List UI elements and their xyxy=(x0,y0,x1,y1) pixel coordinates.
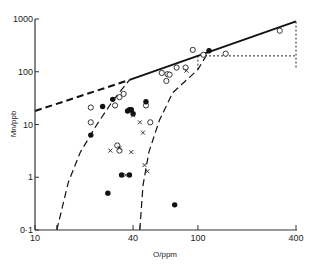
y-tick-label: 100 xyxy=(18,67,33,77)
cross-point xyxy=(142,163,146,167)
filled-circle-point xyxy=(143,99,148,104)
filled-circle-point xyxy=(119,172,124,177)
open-circle-point xyxy=(167,72,172,77)
cross-point xyxy=(141,131,145,135)
open-circle-point xyxy=(121,91,126,96)
x-tick-label: 400 xyxy=(288,233,303,243)
open-circle-point xyxy=(159,70,164,75)
open-circle-point xyxy=(164,78,169,83)
open-circle-point xyxy=(223,51,228,56)
cross-point xyxy=(108,149,112,153)
x-tick-label: 100 xyxy=(190,233,205,243)
y-tick-label: 1 xyxy=(28,172,33,182)
filled-circle-point xyxy=(206,48,211,53)
open-circle-point xyxy=(88,105,93,110)
filled-circle-point xyxy=(172,202,177,207)
open-circle-point xyxy=(148,120,153,125)
x-axis-title: O/ppm xyxy=(153,250,177,259)
scatter-chart: 1040100400 10001001010·1 O/ppm Mn/ppb xyxy=(0,0,314,266)
open-circle-point xyxy=(277,28,282,33)
filled-circle-point xyxy=(110,97,115,102)
filled-circle-point xyxy=(105,190,110,195)
filled-circle-point xyxy=(100,104,105,109)
y-tick-label: 1000 xyxy=(13,14,33,24)
filled-circle-point xyxy=(88,132,93,137)
cross-point xyxy=(129,150,133,154)
open-circle-point xyxy=(190,47,195,52)
left-dashed-curve-line xyxy=(57,80,130,230)
x-tick-label: 40 xyxy=(128,233,138,243)
cross-point xyxy=(138,120,142,124)
boundary-lines xyxy=(35,21,296,230)
y-tick-label: 10 xyxy=(23,120,33,130)
y-tick-label: 0·1 xyxy=(20,225,33,235)
open-circle-point xyxy=(88,120,93,125)
open-circle-point xyxy=(201,52,206,57)
axes xyxy=(35,19,297,230)
solid-upper-boundary-line xyxy=(130,21,297,80)
open-circle-point xyxy=(117,148,122,153)
y-axis-title: Mn/ppb xyxy=(9,110,18,137)
data-points xyxy=(88,28,282,207)
open-circle-point xyxy=(112,103,117,108)
x-axis-ticks: 1040100400 xyxy=(30,225,304,243)
open-circle-point xyxy=(174,65,179,70)
